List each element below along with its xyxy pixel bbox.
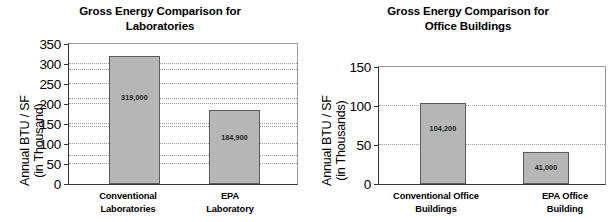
ytick-label-100: 100	[39, 137, 61, 152]
ytick-mark-100	[374, 106, 378, 107]
bar-value-conventional-office-buildings: 104,200	[421, 124, 466, 133]
ytick-mark-350	[64, 44, 68, 45]
category-label-line1: EPA Office	[542, 191, 588, 201]
category-label-line2: Buildings	[356, 203, 516, 216]
chart-title-laboratories: Gross Energy Comparison for Laboratories	[0, 4, 308, 34]
chart-title-line2: Laboratories	[126, 20, 194, 32]
plot-area-laboratories: 0 50 100 150 200 250	[68, 43, 298, 185]
ytick-mark-200	[64, 104, 68, 105]
category-label-line2: Laboratory	[170, 203, 290, 216]
gridline-c	[69, 123, 297, 124]
ytick-mark-300	[64, 64, 68, 65]
chart-panel-laboratories: Gross Energy Comparison for Laboratories…	[0, 0, 308, 222]
ytick-label-200: 200	[39, 97, 61, 112]
bar-conventional-laboratories[interactable]: 319,000	[109, 56, 161, 184]
ytick-label-100: 100	[349, 99, 371, 114]
ytick-label-50: 50	[357, 138, 371, 153]
ytick-mark-0	[64, 184, 68, 185]
ytick-mark-250	[64, 84, 68, 85]
gridline-100	[379, 105, 605, 106]
plot-area-office-buildings: 0 50 100 150 104,200 41,000	[378, 66, 606, 185]
y-axis-label-line1: Annual BTU / SF	[18, 95, 32, 186]
ytick-label-300: 300	[39, 57, 61, 72]
y-axis-label-line2: (in Thousands)	[334, 95, 348, 186]
gridline-150	[69, 98, 297, 99]
gridline-b	[69, 143, 297, 144]
y-axis-label-office-buildings: Annual BTU / SF (in Thousands)	[320, 95, 348, 186]
category-label-conventional-office-buildings: Conventional Office Buildings	[356, 190, 516, 215]
bar-value-epa-office-building: 41,000	[524, 163, 569, 172]
category-label-line2: Building	[500, 203, 616, 216]
ytick-mark-50	[374, 145, 378, 146]
gridline-d	[69, 103, 297, 104]
ytick-label-50: 50	[47, 157, 61, 172]
chart-title-line2: Office Buildings	[425, 20, 512, 32]
category-label-line1: EPA	[221, 191, 239, 201]
y-axis-label-line1: Annual BTU / SF	[320, 95, 334, 186]
chart-title-line1: Gross Energy Comparison for	[387, 5, 549, 17]
chart-title-line1: Gross Energy Comparison for	[79, 5, 241, 17]
gridline-100	[69, 126, 297, 127]
gridline-a	[69, 163, 297, 164]
chart-panel-office-buildings: Gross Energy Comparison for Office Build…	[308, 0, 616, 222]
ytick-label-350: 350	[39, 37, 61, 52]
ytick-mark-150	[64, 124, 68, 125]
category-label-epa-laboratory: EPA Laboratory	[170, 190, 290, 215]
bar-epa-laboratory[interactable]: 184,900	[209, 110, 261, 184]
gridline-50	[69, 155, 297, 156]
chart-title-office-buildings: Gross Energy Comparison for Office Build…	[308, 4, 616, 34]
bar-conventional-office-buildings[interactable]: 104,200	[420, 103, 467, 184]
ytick-mark-100	[64, 144, 68, 145]
ytick-mark-150	[374, 67, 378, 68]
gridline-f	[69, 63, 297, 64]
category-label-epa-office-building: EPA Office Building	[500, 190, 616, 215]
ytick-label-150: 150	[39, 117, 61, 132]
ytick-label-150: 150	[349, 60, 371, 75]
gridline-50	[379, 144, 605, 145]
bar-value-epa-laboratory: 184,900	[210, 133, 260, 142]
ytick-label-0: 0	[54, 177, 61, 192]
ytick-mark-50	[64, 164, 68, 165]
gridline-e	[69, 83, 297, 84]
ytick-label-250: 250	[39, 77, 61, 92]
figure-two-bar-charts: Gross Energy Comparison for Laboratories…	[0, 0, 616, 222]
gridline-200	[69, 69, 297, 70]
bar-value-conventional-laboratories: 319,000	[110, 93, 160, 102]
category-label-line1: Conventional Office	[393, 191, 479, 201]
ytick-mark-0	[374, 184, 378, 185]
bar-epa-office-building[interactable]: 41,000	[523, 152, 570, 184]
category-label-line1: Conventional	[99, 191, 157, 201]
